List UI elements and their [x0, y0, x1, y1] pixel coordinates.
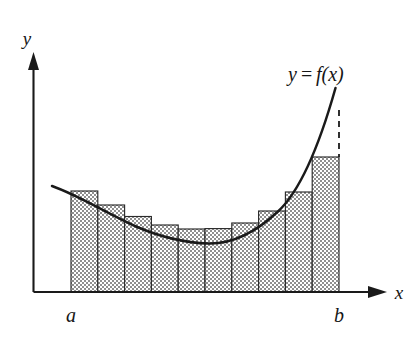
y-axis-arrowhead: [28, 52, 39, 70]
bar-rect: [232, 223, 259, 292]
x-axis-label: x: [394, 282, 404, 303]
plot-canvas: y x a b y = f(x): [0, 0, 417, 337]
function-label-expr: f(x): [316, 63, 344, 86]
y-axis-label: y: [21, 28, 32, 49]
x-tick-label-a: a: [66, 304, 76, 326]
x-tick-label-b: b: [334, 304, 344, 326]
bar-rect: [285, 192, 312, 292]
riemann-rectangles: [71, 157, 339, 292]
bar-rect: [312, 157, 339, 292]
bar-rect: [178, 229, 205, 292]
function-label-y: y: [286, 63, 297, 86]
x-axis-arrowhead: [368, 286, 387, 298]
riemann-sum-figure: — — —: [0, 0, 417, 337]
bar-rect: [205, 229, 232, 292]
function-label-equals: =: [301, 63, 312, 85]
function-label: y = f(x): [286, 63, 344, 86]
